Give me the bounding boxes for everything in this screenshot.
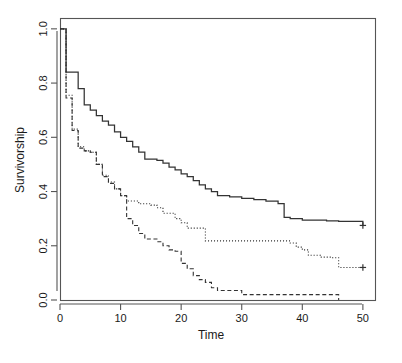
x-tick-label: 20 bbox=[175, 312, 187, 324]
y-tick-label: 0.4 bbox=[37, 184, 49, 199]
x-tick-label: 10 bbox=[114, 312, 126, 324]
x-axis-title: Time bbox=[198, 328, 225, 342]
x-tick-label: 0 bbox=[57, 312, 63, 324]
y-tick-label: 1.0 bbox=[37, 21, 49, 36]
survival-plot-svg: 01020304050 0.00.20.40.60.81.0 Time Surv… bbox=[0, 0, 402, 363]
x-tick-label: 30 bbox=[236, 312, 248, 324]
y-tick-label: 0.8 bbox=[37, 75, 49, 90]
x-tick-label: 40 bbox=[296, 312, 308, 324]
survival-plot-figure: 01020304050 0.00.20.40.60.81.0 Time Surv… bbox=[0, 0, 402, 363]
y-tick-label: 0.2 bbox=[37, 238, 49, 253]
y-tick-label: 0.0 bbox=[37, 292, 49, 307]
y-tick-label: 0.6 bbox=[37, 130, 49, 145]
x-tick-label: 50 bbox=[357, 312, 369, 324]
y-axis-title: Survivorship bbox=[13, 127, 27, 193]
